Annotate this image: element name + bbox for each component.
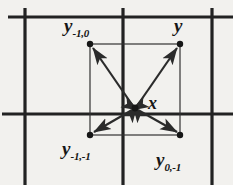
label-y-minus1-0: y-1,0 bbox=[64, 16, 89, 35]
lattice-neighbor-figure: y-1,0 y y-1,-1 y0,-1 x bbox=[0, 0, 233, 185]
point-y-bottom-right bbox=[177, 132, 183, 138]
point-y-top-right bbox=[177, 41, 183, 47]
label-y-0-minus1-subscript: 0,-1 bbox=[164, 161, 181, 173]
label-y-base: y bbox=[174, 15, 182, 36]
arrow-to-top-right bbox=[137, 48, 177, 106]
figure-canvas bbox=[0, 0, 233, 185]
label-y-0-minus1: y0,-1 bbox=[156, 150, 181, 169]
point-y-bottom-left bbox=[87, 132, 93, 138]
lattice-points bbox=[87, 41, 183, 138]
lattice-grid bbox=[2, 8, 233, 185]
label-x: x bbox=[148, 94, 157, 112]
point-x-center bbox=[132, 105, 139, 112]
point-y-top-left bbox=[87, 41, 93, 47]
label-y-minus1-0-subscript: -1,0 bbox=[72, 27, 89, 39]
label-y-minus1-minus1-subscript: -1,-1 bbox=[70, 150, 90, 162]
label-y: y bbox=[174, 16, 182, 35]
label-x-base: x bbox=[148, 93, 157, 113]
neighbor-arrows bbox=[93, 48, 177, 132]
label-y-minus1-minus1: y-1,-1 bbox=[62, 139, 91, 158]
inner-square bbox=[90, 44, 180, 135]
arrow-to-top-left bbox=[93, 48, 133, 106]
